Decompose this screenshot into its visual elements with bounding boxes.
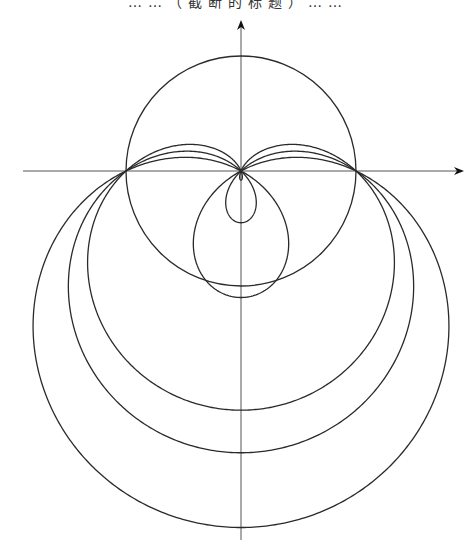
limacon-family-diagram [0,0,476,557]
